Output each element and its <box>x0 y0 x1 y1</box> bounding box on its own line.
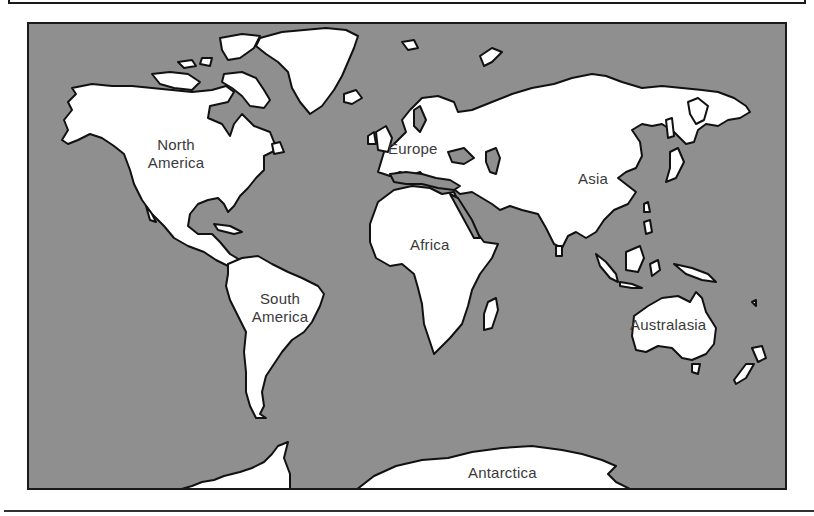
sakhalin-shape <box>666 118 674 138</box>
bottom-divider <box>4 510 814 512</box>
ellesmere-shape <box>220 34 260 60</box>
north-america-shape <box>62 84 280 266</box>
pacific-island-1 <box>752 300 756 306</box>
world-map <box>27 22 787 490</box>
novaya-zemlya-shape <box>480 48 502 66</box>
label-south-america: South America <box>244 290 316 326</box>
iceland-shape <box>344 90 362 104</box>
label-africa: Africa <box>410 236 450 254</box>
sulawesi-shape <box>650 260 660 276</box>
madagascar-shape <box>484 298 498 330</box>
new-zealand-north <box>752 346 766 362</box>
tasmania-shape <box>692 364 700 374</box>
label-australasia: Australasia <box>630 316 706 334</box>
greenland-shape <box>256 28 358 114</box>
antarctica-peninsula-shape <box>178 442 290 488</box>
arctic-islands-shape <box>152 72 200 90</box>
label-antarctica: Antarctica <box>468 464 537 482</box>
borneo-shape <box>626 246 644 272</box>
arctic-small-2 <box>200 58 212 66</box>
new-zealand-south <box>734 364 754 384</box>
label-north-america: North America <box>140 136 212 172</box>
sumatra-shape <box>596 254 618 282</box>
label-asia: Asia <box>578 170 608 188</box>
java-shape <box>620 282 642 288</box>
philippines-shape <box>644 220 652 234</box>
ireland-shape <box>368 132 376 144</box>
arctic-small-1 <box>178 60 196 68</box>
sri-lanka-shape <box>556 246 562 256</box>
label-europe: Europe <box>388 140 438 158</box>
top-frame <box>8 0 806 4</box>
south-america-shape <box>226 256 324 418</box>
newfoundland-shape <box>272 142 284 154</box>
japan-shape <box>666 148 684 182</box>
map-canvas <box>29 24 785 488</box>
new-guinea-shape <box>674 264 716 282</box>
taiwan-shape <box>644 202 650 212</box>
svalbard-shape <box>402 40 418 50</box>
africa-shape <box>370 186 498 354</box>
cuba-shape <box>214 224 242 234</box>
